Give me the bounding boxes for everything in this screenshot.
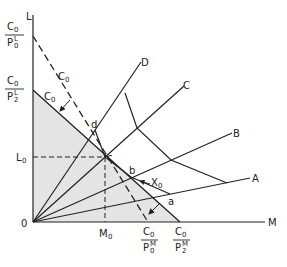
svg-text:P: P [175, 242, 181, 253]
ray-b-label: B [233, 128, 240, 139]
ray-c-label: C [183, 80, 190, 91]
ray-a-label: A [252, 173, 259, 184]
l-axis-label: L [26, 11, 32, 22]
svg-text:M: M [99, 228, 108, 239]
svg-text:C: C [58, 71, 65, 82]
shift-arrow-upper [60, 100, 70, 111]
svg-text:0: 0 [14, 26, 18, 34]
m-axis-label: M [268, 217, 277, 228]
svg-text:0: 0 [65, 76, 69, 84]
y-intercept-new: C0 PL2 [5, 75, 24, 104]
svg-text:P: P [7, 37, 13, 48]
isoquant-outer [125, 93, 227, 183]
svg-text:C: C [7, 21, 14, 32]
svg-text:2: 2 [182, 247, 186, 255]
ray-d-label: D [141, 57, 149, 68]
m0-label: M0 [99, 228, 112, 241]
point-b-label: b [129, 165, 135, 176]
svg-text:0: 0 [51, 96, 55, 104]
l0-label: L0 [16, 152, 26, 165]
svg-text:C: C [175, 226, 182, 237]
svg-text:0: 0 [158, 182, 162, 190]
svg-text:C: C [44, 91, 51, 102]
point-d-label: d [91, 119, 97, 130]
c0-label-dashed: C0 [58, 71, 69, 84]
origin-label: 0 [21, 218, 27, 229]
svg-text:P: P [143, 242, 149, 253]
svg-text:0: 0 [150, 247, 154, 255]
svg-text:C: C [143, 226, 150, 237]
isoquant-diagram: L M 0 C0 PL0 C0 PL2 L0 M0 C0 PM0 C0 PM2 … [0, 0, 287, 267]
svg-text:X: X [151, 177, 158, 188]
svg-text:0: 0 [14, 42, 18, 50]
svg-text:C: C [7, 75, 14, 86]
point-c-label: c [107, 152, 113, 163]
svg-text:0: 0 [22, 157, 26, 165]
svg-text:0: 0 [108, 233, 112, 241]
svg-text:0: 0 [150, 231, 154, 239]
x-intercept-new: C0 PM2 [173, 226, 190, 255]
x-intercept-original: C0 PM0 [141, 226, 158, 255]
y-intercept-original: C0 PL0 [5, 21, 24, 50]
svg-text:0: 0 [14, 80, 18, 88]
svg-text:0: 0 [182, 231, 186, 239]
svg-text:2: 2 [14, 96, 18, 104]
point-a-label: a [168, 196, 174, 207]
svg-text:P: P [7, 91, 13, 102]
